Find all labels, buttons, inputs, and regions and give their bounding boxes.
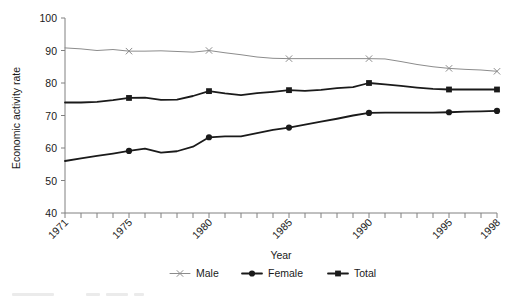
data-point-marker (206, 88, 212, 94)
data-point-marker (366, 80, 372, 86)
data-point-marker (494, 108, 500, 114)
data-point-marker (286, 87, 292, 93)
y-tick-label: 40 (45, 207, 57, 219)
y-tick-label: 80 (45, 77, 57, 89)
y-tick-label: 70 (45, 110, 57, 122)
x-tick-label: 1990 (349, 216, 374, 241)
data-point-marker (446, 109, 452, 115)
x-tick-label: 1995 (429, 216, 454, 241)
data-point-marker (335, 271, 341, 277)
y-tick-label: 90 (45, 45, 57, 57)
series-total (65, 80, 500, 102)
data-point-marker (286, 124, 292, 130)
data-point-marker (126, 148, 132, 154)
legend-label-total: Total (354, 267, 376, 279)
data-point-marker (446, 87, 452, 93)
chart-canvas: 405060708090100 197119751980198519901995… (0, 0, 511, 302)
y-axis-title: Economic activity rate (10, 67, 22, 169)
x-tick-label: 1985 (269, 216, 294, 241)
legend-label-female: Female (268, 267, 303, 279)
y-tick-label: 50 (45, 175, 57, 187)
figure-caption-partial (8, 289, 188, 299)
legend-label-male: Male (196, 267, 219, 279)
economic-activity-rate-chart: 405060708090100 197119751980198519901995… (0, 0, 511, 302)
y-tick-label: 60 (45, 142, 57, 154)
chart-legend: MaleFemaleTotal (170, 267, 376, 279)
legend-item-total[interactable]: Total (328, 267, 376, 279)
legend-item-female[interactable]: Female (242, 267, 303, 279)
data-point-marker (249, 270, 255, 276)
series-male (65, 47, 500, 74)
x-axis-title: Year (270, 249, 292, 261)
series-female (65, 108, 500, 161)
y-axis: 405060708090100 (39, 12, 65, 219)
legend-item-male[interactable]: Male (170, 267, 219, 279)
y-tick-label: 100 (39, 12, 57, 24)
data-series-group (65, 47, 500, 161)
data-point-marker (126, 95, 132, 101)
x-tick-label: 1971 (45, 216, 70, 241)
data-point-marker (206, 134, 212, 140)
data-point-marker (366, 110, 372, 116)
x-tick-label: 1980 (189, 216, 214, 241)
x-tick-label: 1998 (477, 216, 502, 241)
x-axis: 1971197519801985199019951998 (45, 213, 502, 241)
x-tick-label: 1975 (109, 216, 134, 241)
data-point-marker (494, 87, 500, 93)
